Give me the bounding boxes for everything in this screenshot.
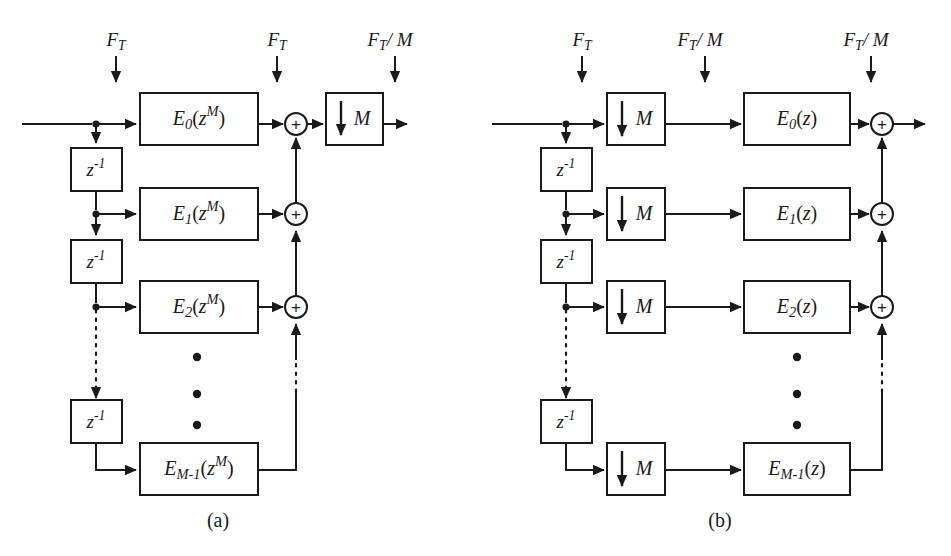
b-rate-label-out-group: FT/ M <box>842 29 889 82</box>
b-decimator-0-label: M <box>635 107 654 129</box>
a-delay-block-2[interactable]: z-1 <box>71 240 122 283</box>
a-filter-block-M1[interactable]: EM-1(zM) <box>140 443 258 495</box>
a-rate-label-mid: FT <box>266 29 288 53</box>
b-delay-block-2[interactable]: z-1 <box>541 240 592 283</box>
b-adder-2-label: + <box>877 298 887 317</box>
a-adder-2-label: + <box>291 298 301 317</box>
b-decimator-1-label: M <box>635 202 654 224</box>
a-filter-block-2[interactable]: E2(zM) <box>140 281 258 333</box>
b-filter-block-0[interactable]: E0(z) <box>744 93 850 145</box>
b-ellipsis-dot-2 <box>793 390 801 398</box>
b-rate-label-out: FT/ M <box>842 29 889 53</box>
b-ellipsis-dot-1 <box>793 353 801 361</box>
b-adder-0-label: + <box>877 115 887 134</box>
a-rate-label-out-group: FT/ M <box>366 29 413 82</box>
a-rate-label-input: FT <box>105 29 127 53</box>
b-rate-label-input: FT <box>571 29 593 53</box>
b-rate-label-input-group: FT <box>571 29 593 82</box>
b-decimator-block-0[interactable]: M <box>607 93 665 145</box>
a-rate-label-mid-group: FT <box>266 29 288 82</box>
b-decimator-block-M1[interactable]: M <box>607 443 665 495</box>
a-decimator-label: M <box>353 107 372 129</box>
b-adder-2[interactable]: + <box>871 296 893 318</box>
b-decimator-M1-label: M <box>635 457 654 479</box>
a-filter-block-1[interactable]: E1(zM) <box>140 188 258 240</box>
figure-root: FT FT FT/ M z-1 <box>0 0 951 556</box>
b-adder-1[interactable]: + <box>871 203 893 225</box>
b-adder-1-label: + <box>877 205 887 224</box>
caption-a: (a) <box>207 509 229 532</box>
a-rate-label-out: FT/ M <box>366 29 413 53</box>
b-decimator-block-2[interactable]: M <box>607 281 665 333</box>
a-decimator-block[interactable]: M <box>326 93 383 145</box>
a-ellipsis-dot-1 <box>193 353 201 361</box>
a-delay-block-1[interactable]: z-1 <box>71 148 122 191</box>
a-spine-5 <box>96 442 128 470</box>
b-decimator-2-label: M <box>635 295 654 317</box>
b-delay-block-1[interactable]: z-1 <box>541 148 592 191</box>
a-adder-1[interactable]: + <box>285 203 307 225</box>
a-rate-label-input-group: FT <box>105 29 127 82</box>
a-ellipsis-dot-3 <box>193 421 201 429</box>
panel-b-group: FT FT/ M FT/ M z- <box>492 29 925 531</box>
b-spine-5 <box>566 442 598 470</box>
b-decimator-block-1[interactable]: M <box>607 188 665 240</box>
a-adder-1-label: + <box>291 205 301 224</box>
a-filter-block-0[interactable]: E0(zM) <box>140 93 258 145</box>
b-filter-block-M1[interactable]: EM-1(z) <box>744 443 850 495</box>
b-filter-block-1[interactable]: E1(z) <box>744 188 850 240</box>
b-filter-block-0-label: E0(z) <box>776 107 818 133</box>
b-ellipsis-dot-3 <box>793 421 801 429</box>
b-filter-block-2-label: E2(z) <box>776 295 818 321</box>
b-filter-block-1-label: E1(z) <box>776 202 818 228</box>
b-adder-0[interactable]: + <box>871 113 893 135</box>
b-rate-label-mid: FT/ M <box>676 29 723 53</box>
a-adder-0[interactable]: + <box>285 113 307 135</box>
b-delay-block-3[interactable]: z-1 <box>541 400 592 443</box>
a-adder-2[interactable]: + <box>285 296 307 318</box>
b-filter-block-2[interactable]: E2(z) <box>744 281 850 333</box>
b-filter-out-M1 <box>850 440 882 470</box>
b-rate-label-mid-group: FT/ M <box>676 29 723 82</box>
a-ellipsis-dot-2 <box>193 390 201 398</box>
panel-a-group: FT FT FT/ M z-1 <box>22 29 414 531</box>
a-delay-block-3[interactable]: z-1 <box>71 400 122 443</box>
caption-b: (b) <box>708 509 731 532</box>
a-adder-0-label: + <box>291 115 301 134</box>
polyphase-diagram-svg: FT FT FT/ M z-1 <box>0 0 951 556</box>
a-filter-out-M1 <box>258 440 296 470</box>
